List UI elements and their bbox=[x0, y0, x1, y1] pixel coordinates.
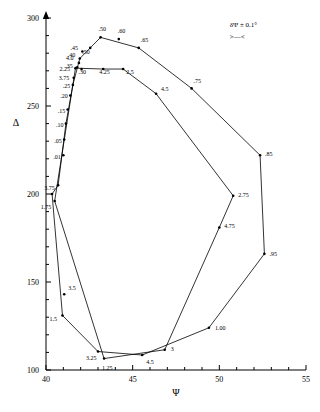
x-axis-title: Ψ bbox=[172, 387, 180, 398]
data-point bbox=[65, 122, 68, 125]
data-point bbox=[81, 50, 84, 53]
data-point bbox=[103, 357, 106, 360]
data-point-label: .10 bbox=[56, 122, 64, 128]
data-point-label: 1.5 bbox=[49, 316, 57, 322]
x-tick-label: 40 bbox=[42, 375, 50, 384]
y-tick-label: 150 bbox=[27, 278, 39, 287]
data-point bbox=[208, 326, 211, 329]
data-point-label: .01 bbox=[53, 154, 61, 160]
y-tick-label: 200 bbox=[27, 190, 39, 199]
data-point-label: .25 bbox=[63, 83, 70, 89]
data-point-label: 3 bbox=[171, 346, 174, 352]
data-point bbox=[63, 293, 66, 296]
data-point-label: 4.5 bbox=[161, 86, 169, 92]
data-point bbox=[51, 193, 54, 196]
data-point-label: .50 bbox=[99, 26, 107, 32]
data-point bbox=[72, 77, 75, 80]
data-point bbox=[97, 350, 100, 353]
data-point bbox=[263, 253, 266, 256]
data-point-label: .45 bbox=[70, 45, 78, 51]
y-tick-label: 300 bbox=[27, 14, 39, 23]
data-point-label: 3.25 bbox=[86, 355, 97, 361]
plot-canvas: 40455055100150200250300ΨΔ1.751.53.53.251… bbox=[0, 0, 320, 412]
data-point bbox=[57, 184, 60, 187]
annotation-error-bar-marker: >—< bbox=[230, 33, 245, 41]
data-point bbox=[118, 38, 121, 41]
x-tick-label: 50 bbox=[215, 375, 223, 384]
data-point bbox=[62, 154, 65, 157]
data-point-label: 2.75 bbox=[238, 192, 249, 198]
data-point bbox=[61, 314, 64, 317]
data-point bbox=[259, 154, 262, 157]
data-point bbox=[72, 84, 75, 87]
data-point bbox=[141, 354, 144, 357]
data-point-label: .65 bbox=[141, 37, 149, 43]
data-point bbox=[63, 138, 66, 141]
data-point-label: 4.75 bbox=[224, 223, 235, 229]
data-point-label: 1.25 bbox=[102, 365, 113, 371]
y-tick-label: 100 bbox=[27, 366, 39, 375]
data-point-label: 4.25 bbox=[99, 69, 110, 75]
x-tick-label: 55 bbox=[302, 375, 310, 384]
data-point-label: 3.75 bbox=[59, 75, 69, 81]
data-point-label: 1.00 bbox=[215, 325, 226, 331]
data-point-label: .05 bbox=[54, 138, 62, 144]
data-point-label: .75 bbox=[194, 78, 202, 84]
data-point-label: 2.25 bbox=[59, 66, 70, 72]
data-point-label: 3.75 bbox=[44, 185, 55, 191]
data-point bbox=[66, 108, 69, 111]
data-point bbox=[232, 194, 235, 197]
curve-inner-loop bbox=[55, 68, 234, 358]
data-point-label: 4.0 bbox=[66, 55, 74, 61]
data-point bbox=[190, 87, 193, 90]
data-point-label: .95 bbox=[269, 251, 277, 257]
data-point bbox=[163, 348, 166, 351]
data-point-label: .20 bbox=[60, 93, 68, 99]
data-point bbox=[99, 36, 102, 39]
data-point-label: 3.5 bbox=[68, 285, 76, 291]
annotation-error-note: δΨ ± 0.1° bbox=[230, 21, 258, 29]
data-point-label: .30 bbox=[79, 69, 87, 75]
data-point bbox=[53, 200, 56, 203]
y-axis-title: Δ bbox=[13, 117, 20, 128]
data-point bbox=[74, 67, 77, 70]
data-point bbox=[79, 57, 82, 60]
ellipsometry-chart: 40455055100150200250300ΨΔ1.751.53.53.251… bbox=[0, 0, 320, 412]
data-point-label: 1.75 bbox=[41, 204, 52, 210]
data-point-label: .60 bbox=[118, 28, 126, 34]
x-tick-label: 45 bbox=[129, 375, 137, 384]
data-point-label: 2.5 bbox=[126, 69, 134, 75]
data-point bbox=[69, 94, 72, 97]
data-point bbox=[155, 92, 158, 95]
data-point-label: .85 bbox=[265, 151, 273, 157]
data-point bbox=[78, 62, 81, 65]
data-point bbox=[137, 47, 140, 50]
data-point bbox=[122, 68, 125, 71]
data-point bbox=[218, 226, 221, 229]
y-tick-label: 250 bbox=[27, 102, 39, 111]
data-point-label: 4.5 bbox=[146, 359, 154, 365]
data-point-label: .15 bbox=[58, 108, 66, 114]
